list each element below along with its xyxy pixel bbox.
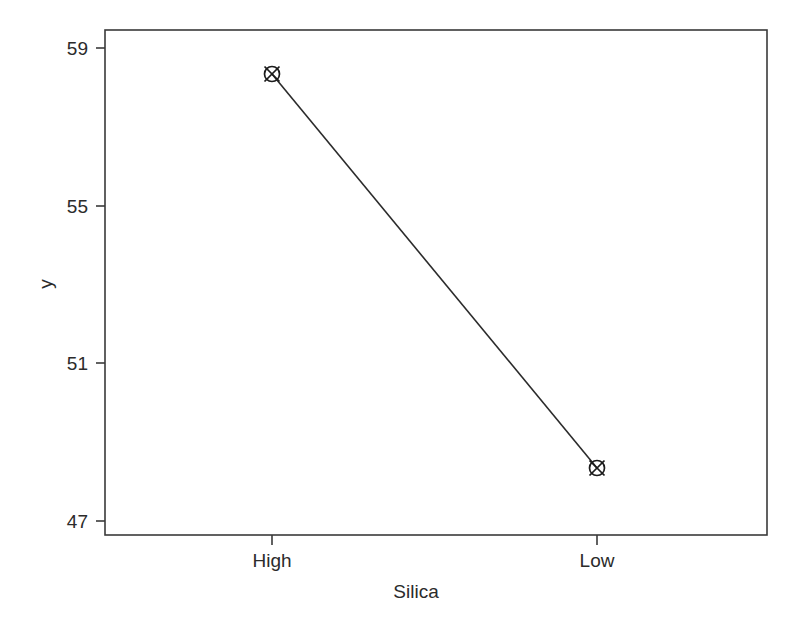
x-tick-label-0: High	[252, 550, 291, 571]
y-axis-title: y	[35, 279, 56, 289]
data-point-low	[590, 461, 605, 476]
y-axis-tick-labels: 59 55 51 47	[67, 38, 88, 532]
y-tick-label-0: 59	[67, 38, 88, 59]
x-axis-tick-labels: High Low	[252, 550, 614, 571]
x-tick-label-1: Low	[580, 550, 615, 571]
chart-canvas: 59 55 51 47 y High Low Silica	[0, 0, 803, 624]
y-tick-label-1: 55	[67, 196, 88, 217]
x-axis-ticks	[272, 535, 597, 545]
plot-frame	[105, 30, 767, 535]
y-tick-label-2: 51	[67, 353, 88, 374]
series-line-y	[272, 74, 597, 468]
x-axis-title: Silica	[393, 581, 439, 602]
interaction-plot: 59 55 51 47 y High Low Silica	[0, 0, 803, 624]
y-axis-ticks	[96, 48, 105, 521]
y-tick-label-3: 47	[67, 511, 88, 532]
data-point-high	[265, 67, 280, 82]
